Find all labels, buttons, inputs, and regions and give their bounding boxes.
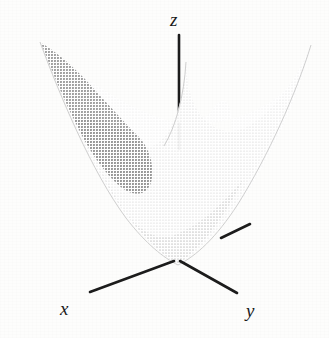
z-axis-label: z <box>170 10 177 29</box>
surface-plot-canvas <box>0 0 329 338</box>
paraboloid-figure: z x y <box>0 0 329 338</box>
y-axis-label: y <box>246 301 254 320</box>
x-axis-line <box>90 261 174 292</box>
y-axis-back-segment <box>221 224 250 238</box>
x-axis-label: x <box>60 299 68 318</box>
y-axis-line <box>180 261 237 293</box>
